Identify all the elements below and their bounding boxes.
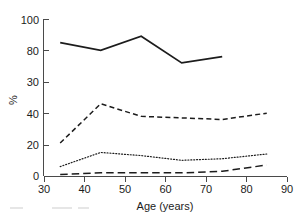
x-tick-label-50: 50 xyxy=(119,183,131,195)
y-axis-title: % xyxy=(7,95,19,105)
y-tick-label-0: 0 xyxy=(33,170,39,182)
series-line-long-dashed xyxy=(60,165,267,174)
x-tick-label-60: 60 xyxy=(159,183,171,195)
y-tick-label-60: 30 xyxy=(27,76,39,88)
chart-figure: 100 80 30 40 20 0 % 30 40 50 60 70 xyxy=(0,0,305,219)
x-axis-title: Age (years) xyxy=(137,200,194,212)
y-tick-label-40: 40 xyxy=(27,108,39,120)
x-axis-ticks xyxy=(44,177,287,182)
y-tick-label-20: 20 xyxy=(27,139,39,151)
x-tick-label-90: 90 xyxy=(281,183,293,195)
x-tick-label-30: 30 xyxy=(38,183,50,195)
series-line-solid xyxy=(60,36,222,63)
x-tick-label-80: 80 xyxy=(240,183,252,195)
line-chart-canvas: 100 80 30 40 20 0 % 30 40 50 60 70 xyxy=(0,0,305,219)
y-tick-label-100: 100 xyxy=(21,14,39,26)
series-line-dashed xyxy=(60,104,267,143)
y-tick-label-80: 80 xyxy=(27,45,39,57)
x-axis-group: 30 40 50 60 70 80 90 Age (years) xyxy=(38,177,293,213)
x-tick-label-70: 70 xyxy=(200,183,212,195)
series-line-dotted xyxy=(60,152,267,166)
x-tick-label-40: 40 xyxy=(78,183,90,195)
series-group xyxy=(60,36,267,174)
y-axis-ticks xyxy=(44,20,49,177)
y-axis-group: 100 80 30 40 20 0 % xyxy=(7,14,49,183)
